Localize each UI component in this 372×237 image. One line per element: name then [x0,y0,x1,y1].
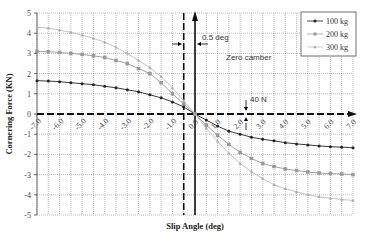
y-tick-label: 5 [27,9,31,18]
y-tick-label: 3 [27,49,31,58]
y-tick-label: 1 [27,90,31,99]
x-tick-label: 5.0 [299,118,312,131]
annotation-zero-camber: Zero camber [226,53,272,62]
svg-text:200 kg: 200 kg [326,30,348,39]
x-tick-label: 3.0 [254,118,267,131]
x-tick-label: -4.0 [95,117,110,132]
x-tick-label: 2.0 [232,118,245,131]
x-tick-label: 7.0 [345,118,358,131]
x-tick-label: -2.0 [140,117,155,132]
cornering-force-chart: 543210-1-2-3-4-5-7.0-6.0-5.0-4.0-3.0-2.0… [0,0,372,237]
annotation-0-5-deg: 0.5 deg [202,33,229,42]
x-tick-label: -6.0 [50,117,65,132]
x-axis-label: Slip Angle (deg) [166,221,224,231]
y-tick-label: -1 [24,130,31,139]
x-tick-label: 4.0 [277,118,290,131]
x-tick-label: -1.0 [163,117,178,132]
y-axis-label: Cornering Force (KN) [4,73,14,154]
svg-text:100 kg: 100 kg [326,17,348,26]
x-tick-label: -5.0 [73,117,88,132]
y-tick-label: -2 [24,150,31,159]
x-tick-label: 6.0 [322,118,335,131]
x-tick-label: 0.0 [187,118,200,131]
y-tick-label: -5 [24,211,31,220]
y-tick-label: 2 [27,70,31,79]
svg-text:300 kg: 300 kg [326,43,348,52]
x-tick-label: -3.0 [118,117,133,132]
legend: 100 kg 200 kg 300 kg [301,12,356,56]
annotation-40-n: 40 N [250,95,267,104]
square-marker-icon [314,33,317,36]
y-tick-label: -3 [24,171,31,180]
diamond-marker-icon [313,19,316,22]
y-tick-label: -4 [24,191,31,200]
annotation-slip-offset: 0.5 deg [172,33,229,46]
y-tick-label: 4 [27,29,31,38]
y-tick-label: 0 [27,110,31,119]
